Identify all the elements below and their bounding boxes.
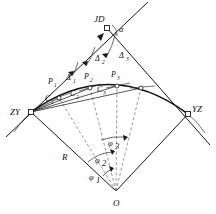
label-delta3-sub: 3 [125, 56, 129, 62]
label-phi1-group: φ 1 [89, 172, 100, 185]
label-c3-sub: 3 [102, 90, 106, 96]
phi1-arrowhead [109, 166, 114, 172]
label-p1: P [47, 77, 53, 86]
label-c1-group: C 1 [45, 94, 54, 105]
tangent-direction-arrow [97, 33, 104, 41]
p3-point-marker [115, 84, 119, 88]
p2-point-marker [88, 86, 92, 90]
label-zy: ZY [10, 107, 21, 117]
label-delta2: Δ [94, 54, 100, 63]
label-p3-group: P 3 [110, 70, 120, 81]
p1-point-marker [57, 96, 61, 100]
label-delta3: Δ [118, 51, 124, 60]
label-p3-sub: 3 [116, 75, 120, 81]
radius-lines [31, 112, 188, 191]
chord-zy-p2 [31, 88, 90, 112]
label-p2-sub: 2 [90, 77, 93, 83]
jd-vertex-marker [105, 26, 110, 31]
label-yz: YZ [192, 104, 203, 114]
label-phi3-sub: 3 [114, 141, 119, 151]
phi3-arc [101, 137, 125, 140]
back-tangent-arrowhead [97, 33, 104, 41]
phi3-arrowhead [123, 135, 128, 141]
forward-tangent-line [107, 28, 210, 145]
label-phi2-sub: 2 [102, 158, 107, 168]
label-p2-group: P 2 [83, 72, 93, 83]
label-phi3: φ [108, 138, 113, 148]
radial-o-to-p4 [116, 88, 141, 191]
label-alpha: α [119, 24, 124, 34]
radius-line-zy-o [31, 112, 116, 191]
label-c2-sub: 2 [76, 94, 79, 100]
label-p2: P [83, 72, 89, 81]
curve-deflection-figure: JD α ZY YZ O R Δ 1 Δ 2 Δ 3 P 1 [0, 0, 216, 214]
label-o: O [113, 198, 120, 208]
label-delta1-sub: 1 [73, 78, 76, 84]
label-delta2-sub: 2 [102, 59, 105, 65]
label-delta2-group: Δ 2 [94, 54, 105, 65]
label-delta3-group: Δ 3 [118, 51, 129, 62]
label-c2-group: C 2 [70, 89, 79, 100]
label-delta1-group: Δ 1 [65, 73, 76, 84]
radial-o-to-p3 [116, 86, 117, 191]
label-jd: JD [94, 14, 105, 24]
label-phi2: φ [95, 155, 100, 165]
label-phi1-sub: 1 [96, 175, 100, 185]
radius-line-yz-o [116, 114, 188, 191]
label-phi3-group: φ 3 [108, 138, 119, 151]
label-radius: R [61, 152, 68, 162]
yz-vertex-marker [186, 112, 191, 117]
label-delta1: Δ [65, 73, 71, 82]
label-phi2-group: φ 2 [95, 155, 107, 168]
curve-diagram-canvas: JD α ZY YZ O R Δ 1 Δ 2 Δ 3 P 1 [0, 0, 216, 214]
label-phi1: φ [89, 172, 94, 182]
back-tangent-line [6, 2, 148, 137]
label-c3-group: C 3 [97, 85, 106, 96]
zy-vertex-marker [29, 110, 34, 115]
p4-point-marker [139, 86, 143, 90]
label-c1-sub: 1 [51, 99, 54, 105]
main-circular-curve [31, 84, 188, 114]
label-p1-group: P 1 [47, 77, 57, 88]
label-p1-sub: 1 [54, 82, 57, 88]
label-p3: P [110, 70, 116, 79]
